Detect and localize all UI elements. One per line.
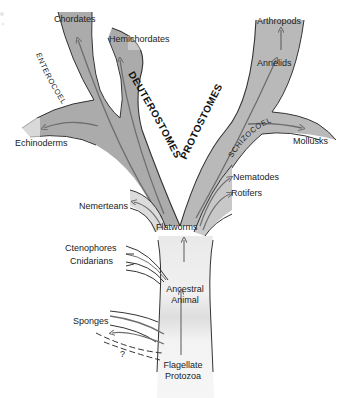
label-nemerteans: Nemerteans: [79, 201, 128, 212]
flagellate-line2: Protozoa: [157, 371, 209, 382]
label-flagellate-protozoa: Flagellate Protozoa: [157, 360, 209, 382]
label-ctenophores: Ctenophores: [65, 243, 117, 254]
label-unknown: ?: [120, 349, 125, 360]
ancestral-line2: Animal: [160, 295, 210, 306]
label-hemichordates: Hemichordates: [109, 34, 170, 45]
corner-artifact: [0, 12, 5, 26]
ancestral-line1: Ancestral: [160, 284, 210, 295]
flagellate-line1: Flagellate: [157, 360, 209, 371]
label-arthropods: Arthropods: [257, 16, 301, 27]
label-chordates: Chordates: [54, 14, 96, 25]
label-cnidarians: Cnidarians: [70, 256, 113, 267]
label-mollusks: Mollusks: [293, 136, 328, 147]
label-rotifers: Rotifers: [231, 188, 262, 199]
label-echinoderms: Echinoderms: [15, 138, 68, 149]
label-sponges: Sponges: [73, 316, 109, 327]
label-annelids: Annelids: [257, 58, 292, 69]
label-flatworms: Flatworms: [156, 222, 198, 233]
label-nematodes: Nematodes: [233, 172, 279, 183]
label-ancestral-animal: Ancestral Animal: [160, 284, 210, 306]
